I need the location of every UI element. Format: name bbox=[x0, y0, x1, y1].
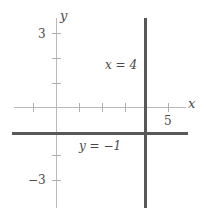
y-tick-label-3: 3 bbox=[38, 28, 46, 40]
coordinate-plane-figure: y x 3 −3 5 x = 4 y = −1 bbox=[0, 0, 206, 218]
x-axis-tick bbox=[125, 103, 126, 112]
annotation-x-equals-4: x = 4 bbox=[105, 59, 137, 71]
x-axis-tick bbox=[102, 103, 103, 112]
x-axis bbox=[14, 107, 186, 108]
x-axis-tick bbox=[79, 103, 80, 112]
y-axis-tick bbox=[52, 155, 61, 156]
y-tick-label-negative-3: −3 bbox=[28, 174, 46, 186]
x-axis-tick bbox=[168, 103, 169, 112]
y-axis-tick bbox=[52, 33, 61, 34]
x-axis-label: x bbox=[188, 97, 195, 110]
y-axis-label: y bbox=[60, 9, 67, 22]
line-x-equals-4 bbox=[144, 18, 147, 208]
x-axis-tick bbox=[33, 103, 34, 112]
annotation-y-equals-negative-1: y = −1 bbox=[79, 140, 121, 152]
y-axis-tick bbox=[52, 83, 61, 84]
y-axis-tick bbox=[52, 58, 61, 59]
line-y-equals-neg-1 bbox=[12, 132, 188, 135]
y-axis-tick bbox=[52, 180, 61, 181]
x-tick-label-5: 5 bbox=[164, 115, 172, 127]
